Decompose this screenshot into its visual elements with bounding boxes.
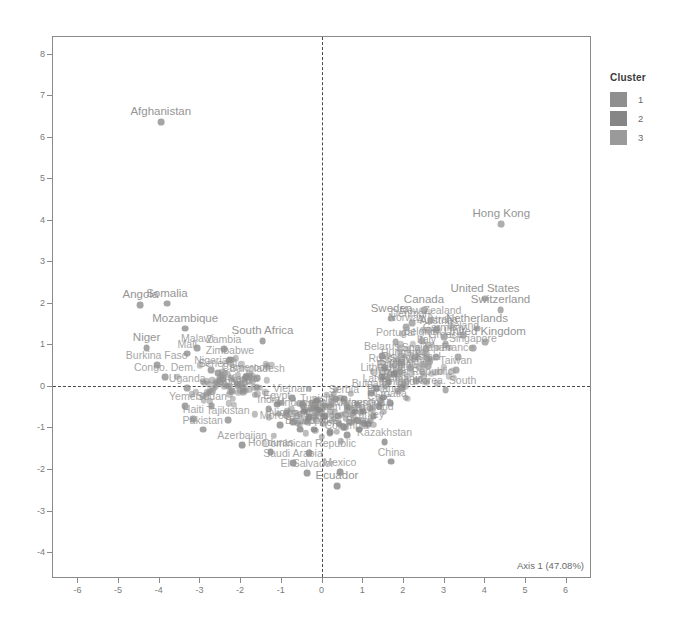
data-point xyxy=(398,363,404,369)
horizontal-reference-line xyxy=(53,386,590,387)
data-point xyxy=(229,396,235,402)
data-point xyxy=(376,402,383,409)
data-point xyxy=(388,458,395,465)
point-label: China xyxy=(378,446,405,457)
data-point xyxy=(276,400,282,406)
data-point xyxy=(311,413,317,419)
data-point xyxy=(330,416,336,422)
point-label: Japan xyxy=(422,342,451,353)
data-point xyxy=(449,368,455,374)
data-point xyxy=(408,357,414,363)
data-point xyxy=(419,338,426,345)
point-label: Hong Kong xyxy=(473,208,531,220)
data-point xyxy=(229,388,236,395)
data-point xyxy=(299,401,305,407)
data-point xyxy=(405,396,411,402)
data-point xyxy=(254,375,261,382)
point-label: Sudan xyxy=(196,391,226,402)
x-tick xyxy=(322,578,323,583)
data-point xyxy=(408,352,414,358)
data-point xyxy=(425,363,432,370)
point-label: Denmark xyxy=(391,308,434,319)
data-point xyxy=(378,373,385,380)
data-point xyxy=(322,403,328,409)
data-point xyxy=(426,359,432,365)
point-label: Czech Republic xyxy=(379,366,453,377)
data-point xyxy=(437,368,443,374)
data-point xyxy=(415,365,421,371)
data-point xyxy=(283,412,289,418)
point-label: Vietnam xyxy=(273,383,311,394)
point-label: Finland xyxy=(381,376,415,387)
data-point xyxy=(273,401,280,408)
data-point xyxy=(419,349,425,355)
data-point xyxy=(404,372,410,378)
data-point xyxy=(396,375,402,381)
data-point xyxy=(252,411,258,417)
data-point xyxy=(397,369,403,375)
data-point xyxy=(206,389,212,395)
data-point xyxy=(230,376,236,382)
data-point xyxy=(200,393,206,399)
data-point xyxy=(404,346,410,352)
data-point xyxy=(348,390,354,396)
data-point xyxy=(267,449,274,456)
data-point xyxy=(412,353,419,360)
point-label: Slovakia xyxy=(380,356,420,367)
legend-item-1[interactable]: 1 xyxy=(610,92,684,107)
data-point xyxy=(310,402,316,408)
data-point xyxy=(207,367,214,374)
x-tick xyxy=(403,578,404,583)
data-point xyxy=(415,349,421,355)
x-tick-label: -1 xyxy=(277,585,285,595)
data-point xyxy=(304,409,310,415)
data-point xyxy=(157,119,164,126)
data-point xyxy=(302,419,308,425)
point-label: Colombia xyxy=(325,420,369,431)
y-tick-label: 1 xyxy=(23,339,45,349)
data-point xyxy=(239,442,246,449)
data-point xyxy=(182,325,189,332)
data-point xyxy=(385,353,391,359)
x-tick-label: 2 xyxy=(400,585,405,595)
data-point xyxy=(340,424,346,430)
point-label: Indonesia xyxy=(282,396,328,407)
plot-panel: AfghanistanHong KongAngolaSomaliaMozambi… xyxy=(52,36,591,578)
point-label: Israel xyxy=(415,351,441,362)
legend-item-3[interactable]: 3 xyxy=(610,130,684,145)
point-label: Canada xyxy=(404,295,444,307)
data-point xyxy=(295,401,301,407)
x-tick-label: 4 xyxy=(482,585,487,595)
data-point xyxy=(362,421,368,427)
data-point xyxy=(423,346,430,353)
data-point xyxy=(219,375,225,381)
data-point xyxy=(328,402,334,408)
data-point xyxy=(421,307,428,314)
data-point xyxy=(289,395,296,402)
data-point xyxy=(469,344,476,351)
data-point xyxy=(344,407,350,413)
data-point xyxy=(265,405,272,412)
data-point xyxy=(314,398,320,404)
data-point xyxy=(446,373,452,379)
data-point xyxy=(243,373,250,380)
data-point xyxy=(208,402,215,409)
data-point xyxy=(241,388,247,394)
point-label: Kazakhstan xyxy=(357,427,412,438)
data-point xyxy=(226,392,232,398)
data-point xyxy=(222,370,228,376)
data-point xyxy=(182,402,189,409)
data-point xyxy=(306,450,313,457)
data-point xyxy=(209,377,215,383)
data-point xyxy=(275,411,281,417)
data-point xyxy=(240,388,246,394)
data-point xyxy=(226,400,232,406)
data-point xyxy=(161,373,168,380)
point-label: Tajikistan xyxy=(206,405,249,416)
legend-item-2[interactable]: 2 xyxy=(610,111,684,126)
data-point xyxy=(421,361,427,367)
data-point xyxy=(312,428,318,434)
point-label: El Salvador xyxy=(280,458,334,469)
data-point xyxy=(369,406,375,412)
data-point xyxy=(319,405,325,411)
